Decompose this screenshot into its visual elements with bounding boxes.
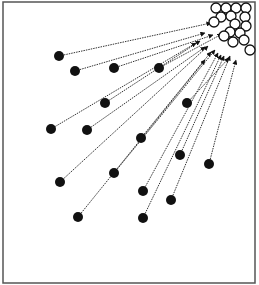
agent-dots: [46, 51, 214, 223]
arrow-5: [105, 41, 200, 103]
diagram-canvas: [0, 0, 259, 285]
agent-dot-12: [55, 177, 65, 187]
arrow-6: [51, 43, 196, 129]
agent-dot-5: [100, 98, 110, 108]
arrow-12: [60, 46, 208, 182]
agent-dot-8: [182, 98, 192, 108]
agent-dot-3: [109, 63, 119, 73]
agent-dot-13: [109, 168, 119, 178]
arrow-1: [59, 23, 211, 56]
diagram-frame: [3, 2, 255, 283]
target-circles: [209, 3, 255, 55]
arrow-8: [187, 58, 229, 103]
target-circle-1: [211, 3, 221, 13]
arrow-15: [171, 56, 230, 200]
target-circle-14: [228, 37, 238, 47]
agent-dot-17: [138, 213, 148, 223]
arrow-7: [87, 47, 205, 130]
target-circle-13: [219, 31, 229, 41]
agent-dot-9: [136, 133, 146, 143]
agent-dot-1: [54, 51, 64, 61]
agent-dot-15: [166, 195, 176, 205]
agent-dot-7: [82, 125, 92, 135]
agent-dot-10: [175, 150, 185, 160]
agent-dot-14: [138, 186, 148, 196]
agent-dot-11: [204, 159, 214, 169]
target-circle-16: [245, 45, 255, 55]
agent-dot-2: [70, 66, 80, 76]
arrow-17: [143, 55, 221, 218]
agent-dot-16: [73, 212, 83, 222]
target-circle-8: [209, 17, 219, 27]
agent-dot-4: [154, 63, 164, 73]
agent-dot-6: [46, 124, 56, 134]
target-circle-15: [239, 35, 249, 45]
